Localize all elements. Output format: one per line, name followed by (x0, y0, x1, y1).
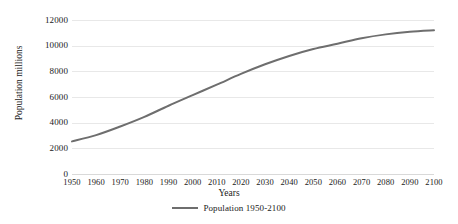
x-tick-label: 2100 (419, 177, 449, 187)
y-tick-label: 10000 (0, 41, 68, 50)
y-tick-label: 12000 (0, 16, 68, 25)
legend-entry[interactable]: Population 1950-2100 (172, 203, 285, 213)
plot-area (72, 20, 434, 174)
gridline (72, 174, 434, 175)
population-line-chart: 020004000600080001000012000 Population m… (0, 0, 458, 224)
y-tick-label: 2000 (0, 144, 68, 153)
y-tick-label: 8000 (0, 67, 68, 76)
legend-label: Population 1950-2100 (203, 203, 285, 213)
y-tick-label: 6000 (0, 93, 68, 102)
legend-swatch-icon (172, 207, 198, 209)
chart-legend: Population 1950-2100 (0, 203, 458, 213)
x-axis-title: Years (0, 188, 458, 198)
series-layer (72, 20, 434, 174)
y-axis-title: Population millions (14, 23, 24, 143)
y-tick-label: 4000 (0, 118, 68, 127)
series-line (72, 30, 434, 141)
